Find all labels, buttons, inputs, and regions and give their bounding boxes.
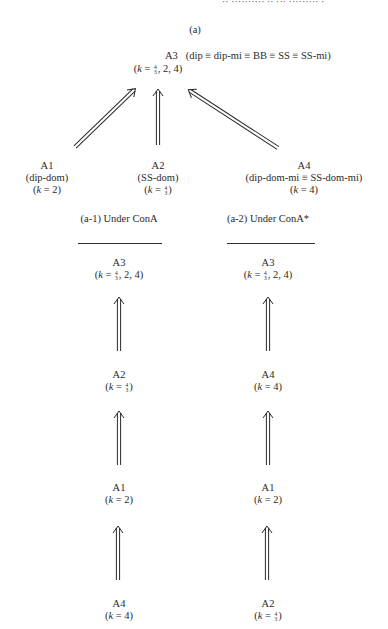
arrow-a2-to-a3 xyxy=(153,89,163,145)
arrow-a1-chain-3 xyxy=(113,526,123,580)
implication-arrows xyxy=(0,0,388,629)
arrow-a2-chain-1 xyxy=(263,297,273,351)
arrow-a1-chain-2 xyxy=(114,411,124,465)
arrow-a2-chain-3 xyxy=(262,526,272,580)
arrow-a1-to-a3 xyxy=(72,85,139,151)
arrow-a4-to-a3 xyxy=(186,86,281,153)
arrow-a1-chain-1 xyxy=(114,297,124,351)
arrow-a2-chain-2 xyxy=(263,411,273,465)
